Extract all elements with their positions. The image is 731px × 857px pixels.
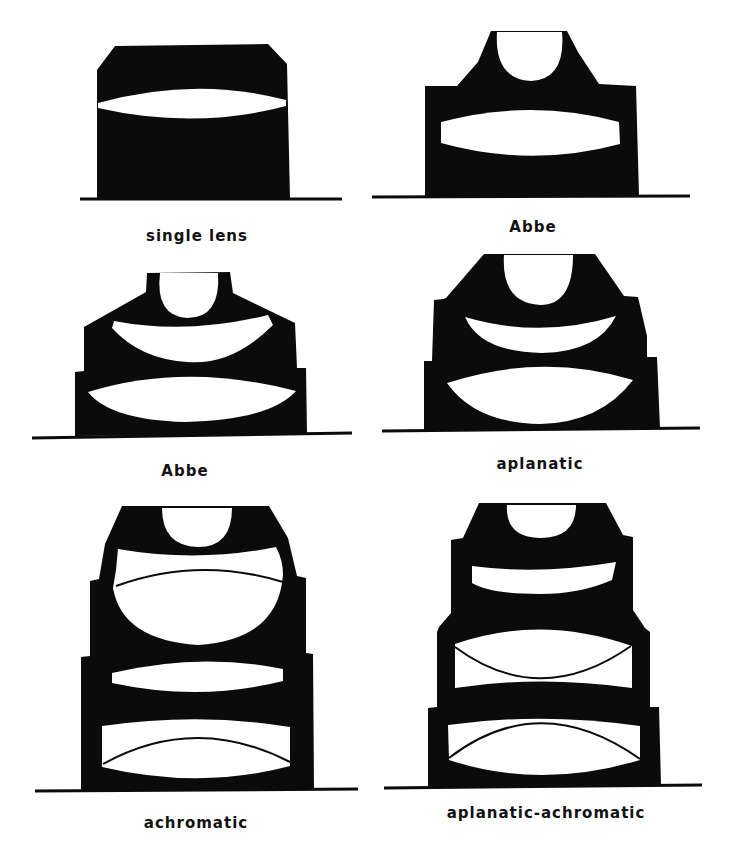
- condenser-housing: [97, 44, 290, 199]
- condenser-diagram: [0, 0, 731, 857]
- label-abbe-2-lens: Abbe: [509, 218, 556, 236]
- label-achromatic: achromatic: [144, 814, 248, 832]
- panel-single-lens: [80, 44, 342, 199]
- panel-abbe-2-lens: [372, 31, 690, 197]
- label-aplanatic: aplanatic: [496, 455, 583, 473]
- stage-baseline: [372, 196, 690, 197]
- label-aplanatic-achromatic: aplanatic-achromatic: [447, 804, 646, 822]
- achromatic-doublet-lower: [448, 719, 640, 775]
- panel-achromatic: [35, 506, 358, 791]
- label-single-lens: single lens: [146, 227, 248, 245]
- panel-aplanatic-achromatic: [384, 503, 702, 788]
- panel-abbe-3-lens: [32, 272, 352, 438]
- biconvex-lens: [441, 110, 620, 156]
- panel-aplanatic: [382, 254, 700, 431]
- label-abbe-3-lens: Abbe: [161, 462, 208, 480]
